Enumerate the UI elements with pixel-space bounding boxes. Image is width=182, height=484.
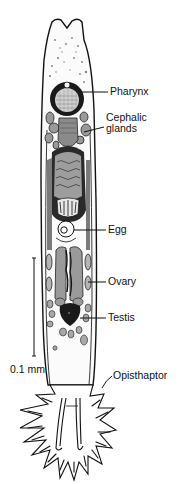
label-cephalic-glands-line2: glands — [106, 123, 137, 134]
label-ovary: Ovary — [108, 276, 136, 287]
label-opisthaptor: Opisthaptor — [113, 370, 167, 381]
opisthaptor — [20, 385, 116, 480]
label-pharynx: Pharynx — [110, 86, 149, 97]
worm-diagram — [0, 0, 182, 484]
label-egg: Egg — [108, 224, 127, 235]
scale-bar — [32, 258, 36, 356]
label-testis: Testis — [108, 312, 135, 323]
pharynx — [50, 82, 84, 116]
scale-bar-label: 0.1 mm — [10, 364, 45, 375]
opisthaptor-leader — [102, 376, 112, 388]
